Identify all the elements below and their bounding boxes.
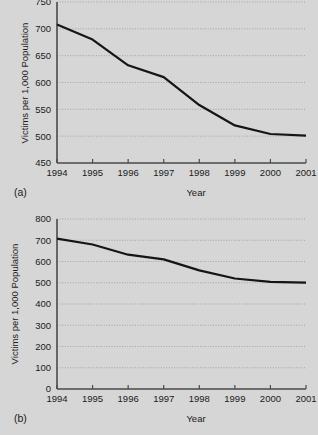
y-tick-label: 800: [35, 215, 51, 224]
chart-a-svg: 450500550600650700750 199419951996199719…: [0, 0, 318, 215]
chart-panel-a: 450500550600650700750 199419951996199719…: [0, 0, 318, 215]
y-tick-label: 700: [35, 23, 51, 34]
x-tick-label: 1996: [118, 393, 139, 404]
y-tick-label: 500: [35, 277, 51, 288]
data-line-b: [57, 239, 306, 283]
x-tick-label: 1998: [189, 393, 210, 404]
gridlines-b: [57, 219, 306, 368]
x-tick-label: 1999: [224, 167, 245, 178]
data-line-a: [57, 25, 306, 136]
y-tick-label: 700: [35, 235, 51, 246]
y-tick-label: 600: [35, 256, 51, 267]
y-tick-label: 300: [35, 320, 51, 331]
figure-b: 0100200300400500600700800 19941995199619…: [0, 215, 318, 435]
x-tick-label: 1999: [224, 393, 245, 404]
y-axis-title-a: Victims per 1,000 Population: [19, 23, 30, 144]
x-tick-label: 2001: [295, 167, 316, 178]
gridlines-a: [57, 2, 306, 136]
panel-label-b: (b): [14, 412, 27, 424]
x-tick-label: 1994: [46, 393, 67, 404]
x-axis-title-a: Year: [186, 187, 205, 198]
x-tick-label: 1997: [153, 393, 174, 404]
x-ticklabels-a: 19941995199619971998199920002001: [46, 167, 316, 178]
y-tick-label: 750: [35, 0, 51, 7]
y-tick-label: 650: [35, 50, 51, 61]
y-tick-label: 200: [35, 341, 51, 352]
y-tick-label: 550: [35, 104, 51, 115]
x-tick-label: 2001: [295, 393, 316, 404]
figure-a: 450500550600650700750 199419951996199719…: [0, 0, 318, 215]
y-tick-label: 400: [35, 298, 51, 309]
x-tick-label: 1994: [46, 167, 67, 178]
y-tick-label: 100: [35, 362, 51, 373]
y-tick-label: 500: [35, 131, 51, 142]
x-ticklabels-b: 19941995199619971998199920002001: [46, 393, 316, 404]
y-axis-title-b: Victims per 1,000 Population: [9, 244, 20, 365]
x-axis-title-b: Year: [186, 413, 205, 424]
y-ticklabels-a: 450500550600650700750: [35, 0, 51, 168]
x-tick-label: 1996: [118, 167, 139, 178]
x-tick-label: 2000: [260, 167, 281, 178]
x-tick-label: 1995: [82, 393, 103, 404]
x-tick-label: 2000: [260, 393, 281, 404]
x-tick-label: 1997: [153, 167, 174, 178]
x-tick-label: 1995: [82, 167, 103, 178]
y-ticklabels-b: 0100200300400500600700800: [35, 215, 51, 394]
chart-b-svg: 0100200300400500600700800 19941995199619…: [0, 215, 318, 435]
panel-label-a: (a): [14, 186, 27, 198]
chart-panel-b: 0100200300400500600700800 19941995199619…: [0, 215, 318, 435]
y-tick-label: 600: [35, 77, 51, 88]
x-tick-label: 1998: [189, 167, 210, 178]
